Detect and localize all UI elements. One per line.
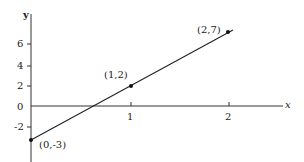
- y-axis-label: y: [23, 10, 29, 20]
- point-0: [29, 138, 33, 142]
- y-tick-neg2: -2: [14, 122, 24, 132]
- x-axis-label: x: [285, 100, 291, 110]
- point-1-label: (1,2): [104, 70, 128, 80]
- point-1: [129, 84, 133, 88]
- point-2-label: (2,7): [197, 25, 221, 35]
- x-tick-2: 2: [225, 112, 231, 122]
- y-tick-2: 2: [17, 81, 23, 91]
- chart-plot: [0, 0, 304, 162]
- point-2: [226, 30, 230, 34]
- x-tick-1: 1: [127, 112, 133, 122]
- point-0-label: (0,-3): [39, 140, 66, 150]
- y-tick-4: 4: [17, 61, 23, 71]
- x-ticks: [131, 102, 229, 106]
- y-tick-6: 6: [17, 39, 23, 49]
- y-ticks: [27, 44, 31, 127]
- y-tick-0: 0: [17, 102, 23, 112]
